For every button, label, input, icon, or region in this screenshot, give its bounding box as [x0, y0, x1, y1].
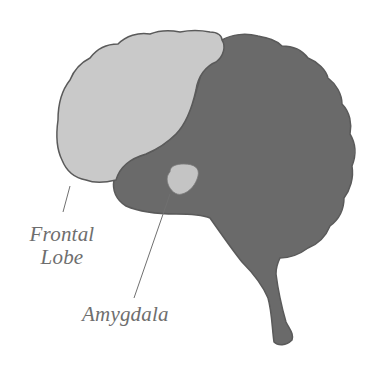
brain-diagram: Frontal Lobe Amygdala — [0, 0, 377, 367]
frontal-lobe-label-line2: Lobe — [22, 246, 102, 269]
amygdala-label: Amygdala — [82, 303, 169, 326]
frontal-lobe-label-line1: Frontal — [22, 223, 102, 246]
frontal-lobe-label: Frontal Lobe — [22, 223, 102, 269]
brain-illustration — [0, 0, 377, 367]
frontal-lobe-leader-line — [63, 186, 70, 212]
